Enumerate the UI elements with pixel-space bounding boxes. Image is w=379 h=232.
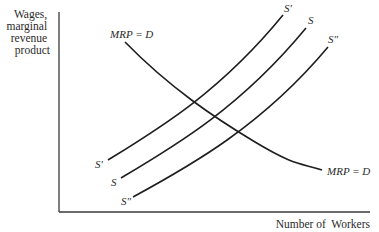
labor-market-diagram: Wages, marginal revenue product Number o… xyxy=(0,0,379,232)
supply-s-prime-label-top: S′ xyxy=(284,2,293,14)
mrp-demand-label-bottom: MRP = D xyxy=(326,165,370,177)
supply-s-double-prime-label-top: S″ xyxy=(328,33,339,45)
supply-s-double-prime-label-bottom: S″ xyxy=(121,195,132,207)
supply-s-label-bottom: S xyxy=(111,176,117,188)
mrp-demand-curve xyxy=(125,42,322,170)
supply-s-prime-label-bottom: S′ xyxy=(95,158,104,170)
supply-s-label-top: S xyxy=(308,14,314,26)
y-axis-label: Wages, marginal revenue product xyxy=(6,8,50,57)
mrp-demand-label-top: MRP = D xyxy=(109,28,153,40)
supply-curve-s-double-prime xyxy=(133,47,328,197)
x-axis-label: Number of Workers xyxy=(276,218,371,230)
